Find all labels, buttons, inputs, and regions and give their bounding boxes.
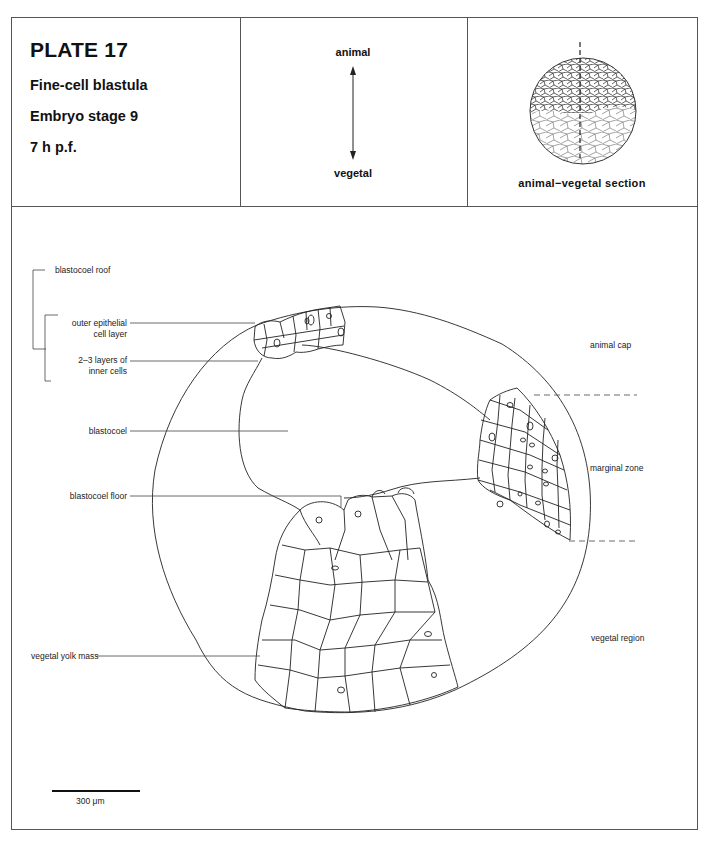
- embryo-section-drawing: [33, 270, 637, 791]
- plate-illustration: [0, 0, 709, 847]
- scale-bar-label: 300 μm: [76, 796, 105, 807]
- blastocoel-roof-cells: [254, 306, 345, 359]
- embryo-sphere-icon: [528, 42, 640, 170]
- label-outer-epithelial-1: outer epithelial: [50, 318, 127, 329]
- vegetal-yolk-cells: [255, 488, 458, 712]
- label-vegetal-yolk-mass: vegetal yolk mass: [31, 651, 99, 662]
- label-blastocoel-floor: blastocoel floor: [30, 491, 127, 502]
- label-animal-cap: animal cap: [590, 340, 631, 351]
- double-headed-arrow-icon: [350, 66, 356, 160]
- blastocoel-boundary: [239, 345, 490, 510]
- label-blastocoel-roof: blastocoel roof: [55, 265, 110, 276]
- label-outer-epithelial-2: cell layer: [50, 329, 127, 340]
- label-marginal-zone: marginal zone: [590, 463, 643, 474]
- marginal-zone-cells: [477, 388, 570, 540]
- label-vegetal-region: vegetal region: [591, 633, 644, 644]
- label-inner-layers-2: inner cells: [50, 366, 127, 377]
- embryo-outline: [152, 307, 590, 713]
- label-blastocoel: blastocoel: [30, 426, 127, 437]
- label-inner-layers-1: 2–3 layers of: [50, 355, 127, 366]
